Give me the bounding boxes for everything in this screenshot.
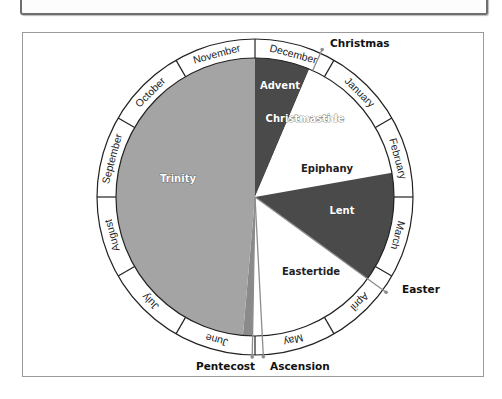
season-label-trinity: Trinity <box>160 173 196 184</box>
pentecost-marker-tip <box>250 355 254 359</box>
feast-label-christmas: Christmas <box>330 37 390 49</box>
feast-label-easter: Easter <box>402 283 441 295</box>
easter-marker-tip <box>384 290 388 294</box>
season-label-lent: Lent <box>329 205 354 216</box>
feast-label-ascension: Ascension <box>270 360 330 372</box>
christmas-marker-tip <box>320 48 324 52</box>
season-label-eastertide: Eastertide <box>282 266 340 277</box>
month-label-june: June <box>204 332 229 350</box>
season-label-christmastide: Christmastide <box>266 113 345 124</box>
season-label-epiphany: Epiphany <box>301 163 354 174</box>
month-label-may: May <box>282 332 305 349</box>
liturgical-wheel: DecemberJanuaryFebruaryMarchAprilMayJune… <box>0 0 502 399</box>
season-label-advent: Advent <box>260 80 300 91</box>
ascension-marker-tip <box>262 355 266 359</box>
feast-label-pentecost: Pentecost <box>196 360 255 372</box>
